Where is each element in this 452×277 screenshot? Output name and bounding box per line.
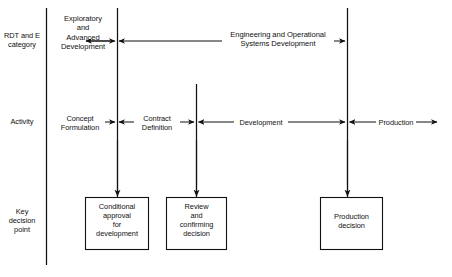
decision-box-label-conditional-approval-for-development: Conditional approval for development — [85, 202, 149, 238]
diagram-canvas: RDT and E category Activity Key decision… — [0, 0, 452, 277]
phase-contract-definition: Contract Definition — [134, 114, 180, 132]
phase-production: Production — [376, 118, 416, 127]
phase-concept-formulation: Concept Formulation — [52, 114, 108, 132]
phase-development: Development — [234, 118, 288, 127]
phase-exploratory-and-advanced-development: Exploratory and Advanced Development — [52, 14, 114, 51]
row-label-key-decision-point: Key decision point — [0, 207, 44, 234]
row-label-activity: Activity — [0, 117, 44, 126]
decision-box-label-production-decision: Production decision — [320, 212, 383, 230]
row-label-rdt-and-e-category: RDT and E category — [0, 31, 44, 49]
phase-engineering-and-operational-systems-development: Engineering and Operational Systems Deve… — [222, 30, 334, 49]
decision-box-label-review-and-confirming-decision: Review and confirming decision — [166, 202, 227, 238]
